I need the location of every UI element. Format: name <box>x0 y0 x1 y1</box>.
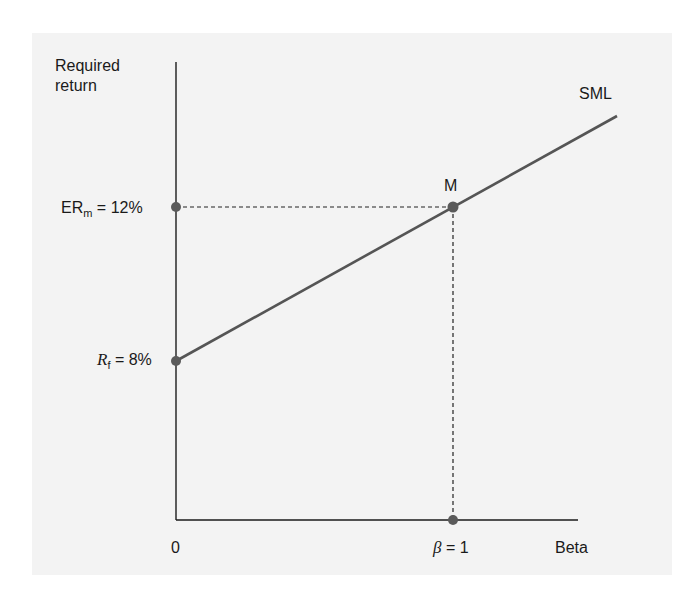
beta-one-point <box>448 515 458 525</box>
y-axis-label: Required return <box>55 56 120 96</box>
rf-prefix: R <box>97 350 107 369</box>
sml-line <box>176 116 617 361</box>
sml-label: SML <box>579 84 612 104</box>
market-point <box>448 202 459 213</box>
rf-point <box>171 356 181 366</box>
y-axis-label-line2: return <box>55 76 120 96</box>
y-axis-label-line1: Required <box>55 56 120 76</box>
rf-value: = 8% <box>110 351 151 368</box>
market-point-label: M <box>444 176 457 196</box>
erm-prefix: ER <box>61 199 83 216</box>
erm-point <box>171 202 181 212</box>
beta-one-label: β = 1 <box>433 538 469 558</box>
rf-tick-label: Rf = 8% <box>97 350 152 370</box>
erm-tick-label: ERm = 12% <box>61 198 143 218</box>
beta-value: = 1 <box>441 539 468 556</box>
erm-value: = 12% <box>92 199 142 216</box>
origin-label: 0 <box>171 538 180 558</box>
x-axis-label: Beta <box>555 538 588 558</box>
